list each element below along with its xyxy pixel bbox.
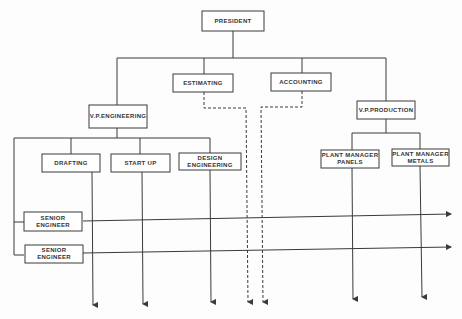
node-drafting: DRAFTING (42, 154, 100, 172)
node-plant-manager-metals: PLANT MANAGER METALS (392, 149, 449, 166)
node-vp-engineering: V.P.ENGINEERING (89, 105, 147, 128)
node-start-up: START UP (111, 154, 170, 172)
node-design-engineering: DESIGN ENGINEERING (179, 153, 241, 170)
org-chart: PRESIDENT V.P.ENGINEERING ESTIMATING ACC… (0, 0, 462, 319)
node-senior-engineer-1: SENIOR ENGINEER (24, 212, 82, 231)
node-senior-engineer-2: SENIOR ENGINEER (25, 245, 83, 263)
node-president: PRESIDENT (202, 11, 264, 31)
node-accounting: ACCOUNTING (271, 73, 331, 91)
node-vp-production: V.P.PRODUCTION (357, 101, 415, 119)
node-plant-manager-panels: PLANT MANAGER PANELS (321, 150, 379, 168)
node-estimating: ESTIMATING (173, 74, 233, 92)
